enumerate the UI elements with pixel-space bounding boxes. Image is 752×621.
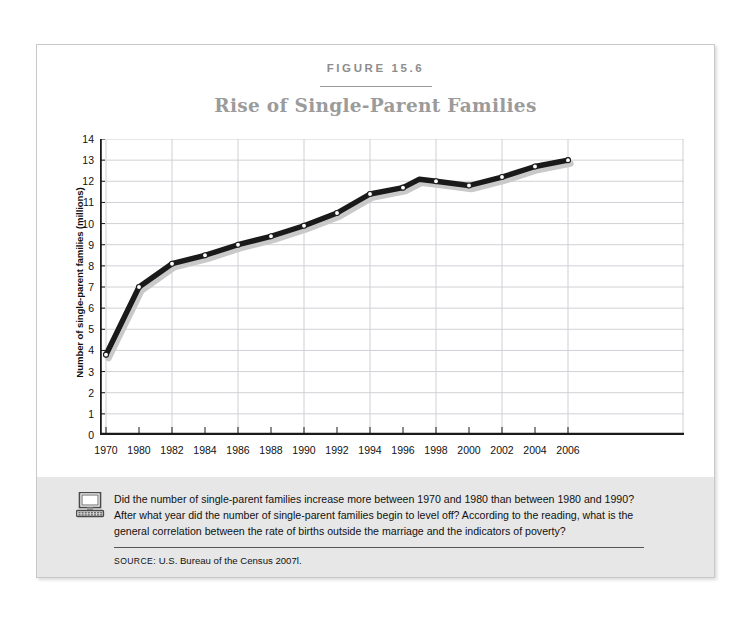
data-point-marker [467,183,472,188]
x-axis-tick-label: 1992 [325,445,348,456]
x-axis-tick-label: 2006 [556,445,579,456]
x-axis-tick-label: 2004 [523,445,546,456]
computer-icon [76,492,106,518]
y-axis-tick-label: 5 [72,324,94,335]
y-axis-tick-label: 8 [72,261,94,272]
x-axis-tick-label: 1970 [94,445,117,456]
x-axis-tick-label: 1982 [160,445,183,456]
x-axis-tick-label: 2000 [457,445,480,456]
y-axis-tick-label: 14 [72,134,94,145]
figure-number-label: FIGURE 15.6 [37,62,714,74]
y-axis-tick-label: 9 [72,240,94,251]
y-axis-tick-label: 11 [72,197,94,208]
figure-header-divider [320,86,432,87]
data-point-marker [170,261,175,266]
data-series-group [104,158,571,359]
y-axis-tick-label: 12 [72,176,94,187]
source-line: SOURCE: U.S. Bureau of the Census 2007l. [114,555,644,566]
figure-page: FIGURE 15.6 Rise of Single-Parent Famili… [0,0,752,621]
y-axis-tick-label: 4 [72,345,94,356]
source-label: SOURCE: [114,556,156,566]
data-point-marker [203,253,208,258]
x-axis-tick-label: 1986 [226,445,249,456]
y-axis-tick-label: 13 [72,155,94,166]
caption-block: Did the number of single-parent families… [114,491,644,566]
chart-container: Number of single-parent families (millio… [37,127,716,515]
data-point-marker [533,164,538,169]
data-point-marker [500,175,505,180]
x-axis-tick-label: 1996 [391,445,414,456]
x-axis-tick-label: 2002 [490,445,513,456]
series-line [106,160,568,355]
data-point-marker [335,211,340,216]
caption-band: Did the number of single-parent families… [37,477,714,577]
data-point-marker [434,179,439,184]
y-axis-tick-label: 7 [72,282,94,293]
data-point-marker [368,191,373,196]
x-axis-tick-labels: 1970198019821984198619881990199219941996… [100,445,684,461]
x-axis-tick-label: 1988 [259,445,282,456]
data-point-marker [566,158,571,163]
data-point-marker [137,285,142,290]
caption-divider [114,547,644,548]
data-point-marker [302,223,307,228]
x-axis-tick-label: 1980 [127,445,150,456]
x-axis-tick-label: 1984 [193,445,216,456]
x-axis-tick-label: 1990 [292,445,315,456]
grid-lines [100,139,684,435]
y-axis-tick-label: 0 [72,430,94,441]
y-axis-tick-label: 3 [72,367,94,378]
y-axis-tick-label: 2 [72,388,94,399]
data-point-marker [236,242,241,247]
x-axis-tick-label: 1998 [424,445,447,456]
line-chart-svg [100,139,684,435]
figure-title: Rise of Single-Parent Families [37,95,714,116]
x-axis-tick-label: 1994 [358,445,381,456]
caption-question-text: Did the number of single-parent families… [114,491,644,540]
plot-area [100,139,684,435]
source-value: U.S. Bureau of the Census 2007l. [159,555,302,566]
y-axis-tick-label: 10 [72,219,94,230]
data-point-marker [269,234,274,239]
figure-frame: FIGURE 15.6 Rise of Single-Parent Famili… [36,44,715,578]
data-point-marker [401,185,406,190]
y-axis-tick-labels: 14131211109876543210 [68,139,94,435]
y-axis-tick-label: 6 [72,303,94,314]
data-point-marker [104,352,109,357]
y-axis-tick-label: 1 [72,409,94,420]
